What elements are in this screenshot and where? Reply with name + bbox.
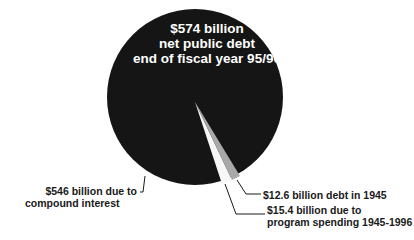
annotation-compound-interest: $546 billion due to compound interest xyxy=(25,185,137,209)
title-line-3: end of fiscal year 95/96 xyxy=(100,51,314,66)
annotation-line: $12.6 billion debt in 1945 xyxy=(263,189,387,201)
leader-line-program-spending xyxy=(225,184,265,214)
leader-line-compound-interest xyxy=(140,176,145,192)
title-line-1: $574 billion xyxy=(100,21,314,36)
title-line-2: net public debt xyxy=(100,36,314,51)
annotation-line: compound interest xyxy=(25,197,137,209)
leader-line-debt-1945 xyxy=(237,180,261,194)
pie-center-title: $574 billion net public debt end of fisc… xyxy=(100,21,314,66)
annotation-program-spending: $15.4 billion due to program spending 19… xyxy=(267,204,412,228)
annotation-line: program spending 1945-1996 xyxy=(267,216,412,228)
annotation-line: $546 billion due to xyxy=(25,185,137,197)
annotation-line: $15.4 billion due to xyxy=(267,204,412,216)
annotation-debt-1945: $12.6 billion debt in 1945 xyxy=(263,189,387,201)
